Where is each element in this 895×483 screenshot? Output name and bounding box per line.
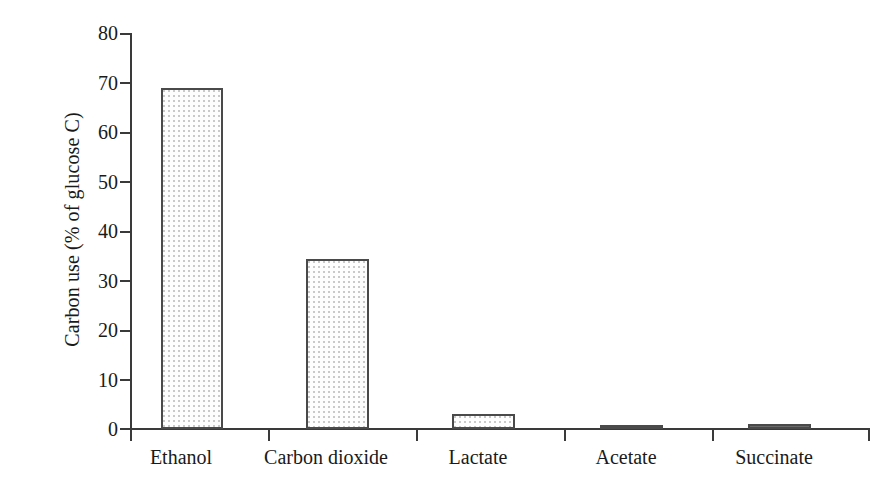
y-axis-line bbox=[130, 33, 132, 430]
x-tick-1 bbox=[268, 430, 270, 441]
bar-chart: Carbon use (% of glucose C) 80 70 60 50 … bbox=[0, 0, 895, 483]
y-tick-label-20: 20 bbox=[70, 320, 118, 340]
x-label-ethanol: Ethanol bbox=[121, 446, 241, 468]
bar-ethanol bbox=[161, 88, 223, 429]
y-tick-label-70: 70 bbox=[70, 73, 118, 93]
y-tick-20 bbox=[120, 330, 130, 332]
bar-acetate bbox=[600, 425, 663, 429]
y-tick-80 bbox=[120, 33, 130, 35]
y-axis-tick-labels: 80 70 60 50 40 30 20 10 0 bbox=[70, 0, 118, 483]
x-tick-3 bbox=[564, 430, 566, 441]
y-tick-label-80: 80 bbox=[70, 23, 118, 43]
x-tick-2 bbox=[416, 430, 418, 441]
x-label-carbon-dioxide: Carbon dioxide bbox=[236, 446, 416, 468]
x-label-lactate: Lactate bbox=[413, 446, 543, 468]
y-tick-60 bbox=[120, 132, 130, 134]
y-tick-label-50: 50 bbox=[70, 172, 118, 192]
y-tick-50 bbox=[120, 181, 130, 183]
plot-area bbox=[130, 33, 870, 430]
y-tick-40 bbox=[120, 231, 130, 233]
bar-lactate bbox=[452, 414, 515, 429]
y-tick-label-60: 60 bbox=[70, 122, 118, 142]
y-tick-label-40: 40 bbox=[70, 221, 118, 241]
x-label-acetate: Acetate bbox=[561, 446, 691, 468]
y-tick-label-30: 30 bbox=[70, 271, 118, 291]
y-tick-30 bbox=[120, 280, 130, 282]
y-tick-label-0: 0 bbox=[70, 419, 118, 439]
y-tick-70 bbox=[120, 82, 130, 84]
bar-succinate bbox=[748, 424, 811, 429]
bar-carbon-dioxide bbox=[306, 259, 369, 429]
y-tick-10 bbox=[120, 379, 130, 381]
x-label-succinate: Succinate bbox=[704, 446, 844, 468]
y-tick-0 bbox=[120, 428, 130, 430]
x-tick-4 bbox=[712, 430, 714, 441]
y-tick-label-10: 10 bbox=[70, 370, 118, 390]
x-tick-5 bbox=[868, 430, 870, 441]
x-tick-0 bbox=[130, 430, 132, 441]
